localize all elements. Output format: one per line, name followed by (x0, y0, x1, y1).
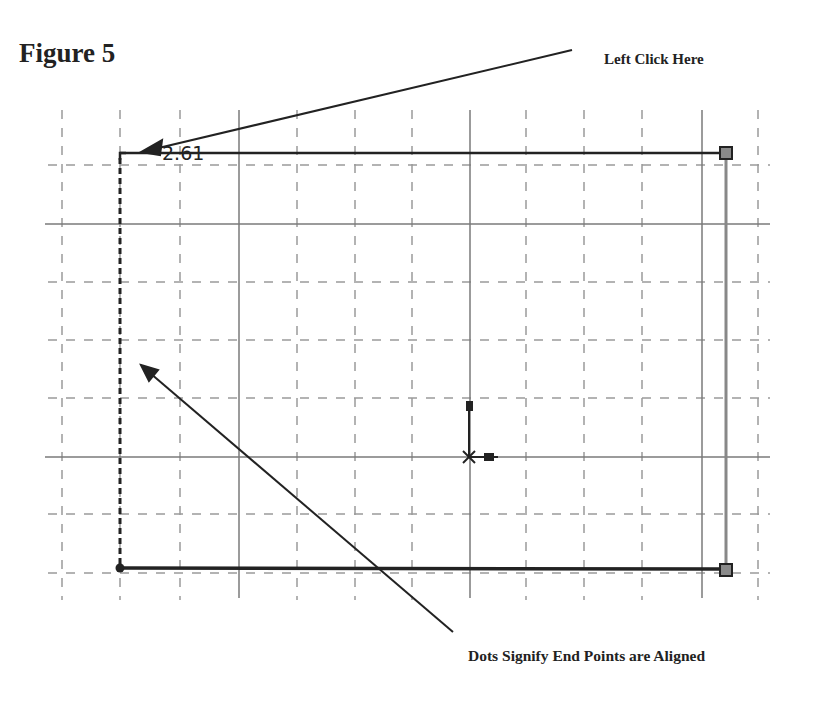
endpoint-handle-top-right (720, 147, 732, 159)
arrow-left-click (141, 50, 572, 155)
origin-marker (463, 402, 498, 463)
sketch-rectangle (120, 153, 726, 570)
figure-canvas: Figure 5 Left Click Here Dots Signify En… (0, 0, 828, 702)
endpoint-handle-bottom-right (720, 564, 732, 576)
grid-major (45, 110, 770, 598)
sketch-area: 2.61 (0, 0, 828, 702)
grid-minor (48, 110, 770, 600)
aligned-endpoint-dot (116, 564, 125, 573)
